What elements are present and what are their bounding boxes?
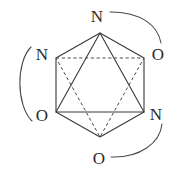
bridge-arc-bottom-right <box>111 124 162 157</box>
dashed-triangle-back-face <box>56 58 144 137</box>
atom-label-upper-right: O <box>152 46 164 63</box>
atom-label-lower-left: O <box>36 107 48 124</box>
atom-label-upper-left: N <box>36 46 48 63</box>
octahedral-coordination-figure: N N O O N O <box>0 0 177 179</box>
bridge-arc-top-right <box>110 12 161 43</box>
bridge-arc-left <box>20 47 32 121</box>
figure-drawing-canvas <box>0 0 177 179</box>
atom-label-bottom: O <box>93 150 105 167</box>
atom-label-top: N <box>91 8 103 25</box>
solid-triangle-front-face <box>56 33 144 112</box>
atom-label-lower-right: N <box>150 106 162 123</box>
hexagon-outline <box>56 33 144 137</box>
